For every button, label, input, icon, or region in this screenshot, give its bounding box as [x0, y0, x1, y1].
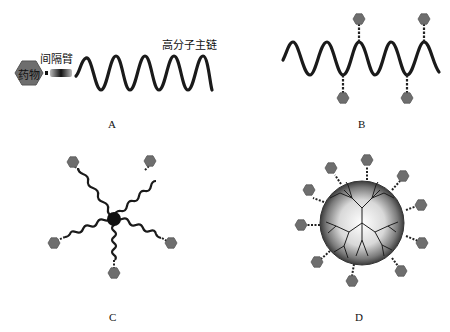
- panel-d-caption: D: [355, 311, 363, 323]
- polymer-backbone-icon: [283, 42, 439, 75]
- panel-c-caption: C: [109, 311, 116, 323]
- spacer-label: 间隔臂: [40, 50, 73, 66]
- spacer-arm-icon: [50, 69, 72, 77]
- drug-hexagon-icon: [108, 268, 120, 278]
- panel-b: [283, 14, 439, 103]
- polymer-drug-conjugate-figure: 药物 间隔臂 高分子主链 A B C D: [0, 0, 450, 332]
- panel-a-caption: A: [108, 118, 116, 130]
- star-arm-icon: [113, 181, 156, 217]
- star-core-icon: [107, 212, 121, 226]
- drug-hexagon-icon: [144, 156, 156, 166]
- polymer-backbone-icon: [76, 56, 212, 90]
- drug-hexagon-icon: [48, 238, 60, 248]
- drug-label: 药物: [18, 66, 40, 82]
- backbone-label: 高分子主链: [162, 36, 217, 52]
- drug-hexagon-icon: [165, 238, 177, 248]
- pendant-drug-icon: [353, 14, 365, 42]
- star-arm-icon: [78, 168, 113, 217]
- connector-dot-icon: [45, 71, 48, 75]
- star-arm-icon: [65, 217, 113, 237]
- panel-c: [48, 156, 177, 278]
- panel-d: [295, 155, 428, 286]
- panel-b-caption: B: [358, 118, 365, 130]
- drug-hexagon-icon: [67, 157, 79, 167]
- pendant-drug-icon: [418, 14, 430, 42]
- pendant-drug-icon: [401, 75, 413, 103]
- pendant-drug-icon: [337, 75, 349, 103]
